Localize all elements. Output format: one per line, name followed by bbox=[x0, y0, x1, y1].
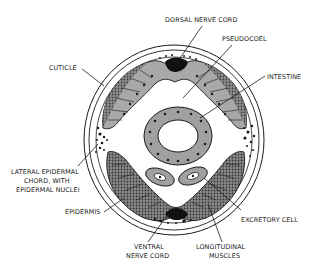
label-lateral-epidermal-chord-3: EPIDERMAL NUCLEI bbox=[16, 186, 80, 194]
label-pseudocoel: PSEUDOCOEL bbox=[222, 35, 267, 43]
label-epidermis: EPIDERMIS bbox=[65, 208, 101, 216]
label-longitudinal-muscles-1: LONGITUDINAL bbox=[196, 243, 246, 251]
label-ventral-nerve-cord-1: VENTRAL bbox=[134, 243, 164, 251]
label-cuticle: CUTICLE bbox=[49, 64, 77, 72]
label-excretory-cell: EXCRETORY CELL bbox=[241, 216, 298, 224]
label-dorsal-nerve-cord: DORSAL NERVE CORD bbox=[165, 16, 237, 24]
label-lateral-epidermal-chord-2: CHORD, WITH bbox=[24, 177, 70, 185]
label-longitudinal-muscles-2: MUSCLES bbox=[209, 252, 240, 260]
label-lateral-epidermal-chord-1: LATERAL EPIDERMAL bbox=[11, 168, 79, 176]
label-intestine: INTESTINE bbox=[267, 73, 301, 81]
intestine bbox=[144, 107, 212, 165]
nematode-cross-section-diagram: DORSAL NERVE CORD PSEUDOCOEL CUTICLE INT… bbox=[0, 0, 320, 271]
label-ventral-nerve-cord-2: NERVE CORD bbox=[126, 252, 169, 260]
